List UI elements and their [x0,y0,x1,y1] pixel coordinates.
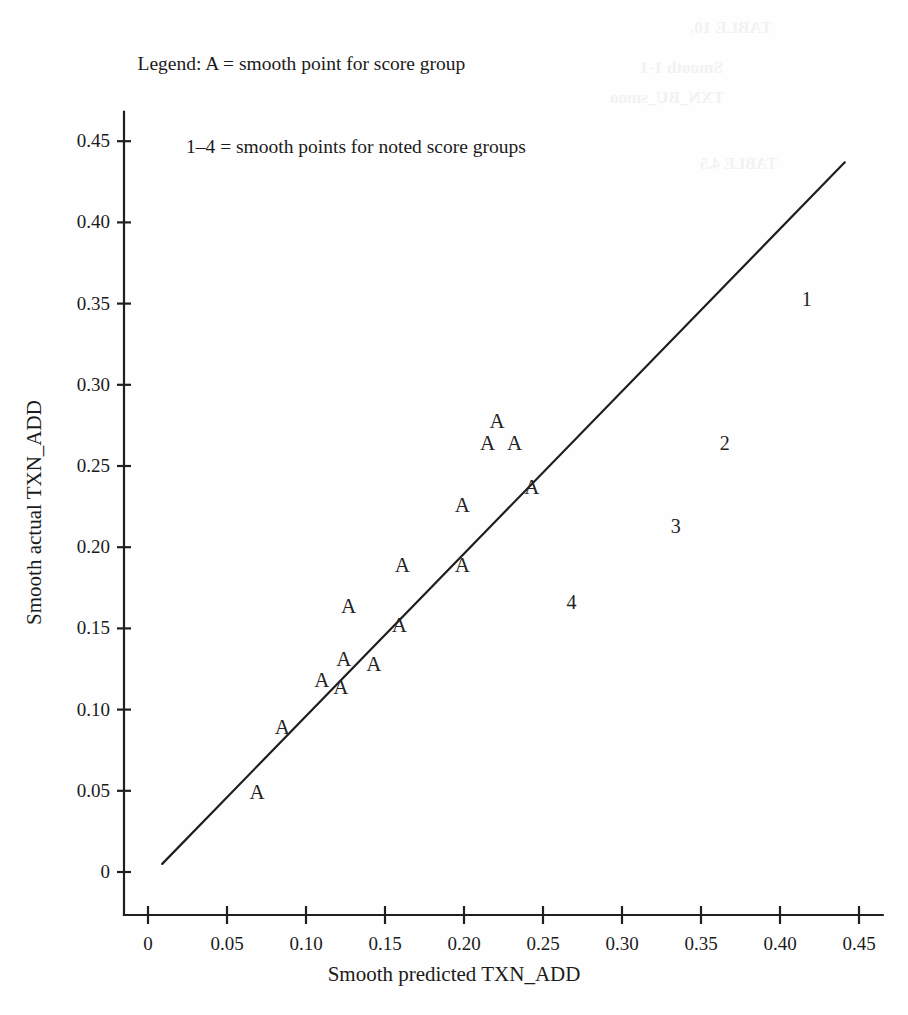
y-tick-label: 0.40 [77,211,110,233]
reference-line [162,162,845,864]
legend-line-2: 1–4 = smooth points for noted score grou… [118,133,526,161]
data-point-group-1: 1 [802,289,812,309]
data-point-a: A [275,717,290,738]
bleed-through-text: TABLE 4.5 [700,155,777,173]
data-point-a: A [392,615,407,636]
y-tick-label: 0.35 [77,293,110,315]
data-point-a: A [249,782,264,803]
data-point-a: A [395,555,410,576]
figure-scatter-plot: TABLE 10.Smooth 1-1TXN_BU_smooTABLE 4.5 … [0,0,908,1015]
x-tick-label: 0.45 [842,933,875,955]
y-tick-label: 0.30 [77,374,110,396]
chart-legend: Legend: A = smooth point for score group… [118,22,526,216]
data-point-a: A [366,654,381,675]
y-tick-label: 0 [101,861,111,883]
y-tick-label: 0.05 [77,780,110,802]
reference-line-group [162,162,845,864]
data-point-a: A [490,410,505,431]
y-axis-title: Smooth actual TXN_ADD [22,333,47,693]
bleed-through-text: TXN_BU_smoo [610,88,724,108]
y-tick-label: 0.10 [77,699,110,721]
data-point-a: A [341,595,356,616]
y-tick-label: 0.15 [77,617,110,639]
data-point-a: A [333,676,348,697]
x-tick-label: 0.40 [763,933,796,955]
legend-line-1: Legend: A = smooth point for score group [138,53,466,74]
data-point-group-2: 2 [720,433,730,453]
x-axis-title: Smooth predicted TXN_ADD [0,962,908,987]
data-point-a: A [507,433,522,454]
x-tick-label: 0.25 [526,933,559,955]
y-tick-label: 0.25 [77,455,110,477]
data-point-a: A [314,670,329,691]
data-point-a: A [455,494,470,515]
x-tick-label: 0 [143,933,153,955]
data-point-a: A [524,477,539,498]
data-point-a: A [455,555,470,576]
axes-group [117,112,883,924]
x-tick-label: 0.05 [210,933,243,955]
x-tick-label: 0.15 [368,933,401,955]
y-tick-label: 0.20 [77,536,110,558]
bleed-through-text: Smooth 1-1 [640,58,723,78]
y-tick-label: 0.45 [77,130,110,152]
bleed-through-text: TABLE 10. [690,18,772,38]
data-point-group-3: 3 [671,516,681,536]
data-point-a: A [336,649,351,670]
data-point-a: A [480,433,495,454]
x-tick-label: 0.20 [447,933,480,955]
x-tick-label: 0.30 [605,933,638,955]
x-tick-label: 0.35 [684,933,717,955]
x-tick-label: 0.10 [289,933,322,955]
data-point-group-4: 4 [566,592,576,612]
